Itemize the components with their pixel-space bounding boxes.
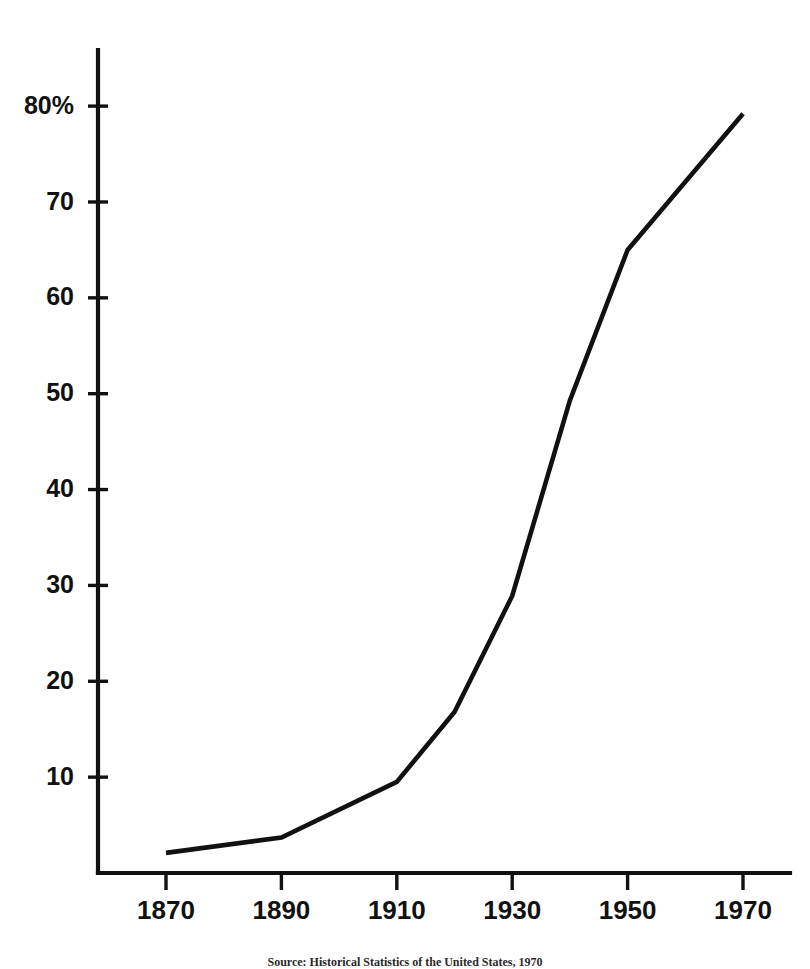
- x-tick-label-1870: 1870: [137, 895, 195, 925]
- y-tick-label-70: 70: [46, 187, 74, 215]
- y-tick-label-40: 40: [46, 474, 74, 502]
- x-tick-label-1950: 1950: [599, 895, 657, 925]
- x-tick-label-1890: 1890: [252, 895, 310, 925]
- y-tick-label-60: 60: [46, 282, 74, 310]
- data-series-line: [166, 114, 743, 853]
- x-tick-label-1970: 1970: [714, 895, 772, 925]
- chart-figure: 1020304050607080% 1870189019101930195019…: [0, 0, 810, 969]
- line-chart-canvas: 1020304050607080% 1870189019101930195019…: [0, 0, 810, 969]
- x-axis-tick-labels: 187018901910193019501970: [137, 895, 772, 925]
- x-tick-label-1930: 1930: [483, 895, 541, 925]
- x-tick-label-1910: 1910: [368, 895, 426, 925]
- y-tick-label-80: 80%: [24, 91, 74, 119]
- y-tick-label-10: 10: [46, 762, 74, 790]
- y-tick-label-20: 20: [46, 666, 74, 694]
- y-tick-label-50: 50: [46, 378, 74, 406]
- y-axis-tick-labels: 1020304050607080%: [24, 91, 74, 790]
- y-tick-label-30: 30: [46, 570, 74, 598]
- source-caption: Source: Historical Statistics of the Uni…: [267, 955, 542, 969]
- x-axis-ticks: [166, 873, 743, 890]
